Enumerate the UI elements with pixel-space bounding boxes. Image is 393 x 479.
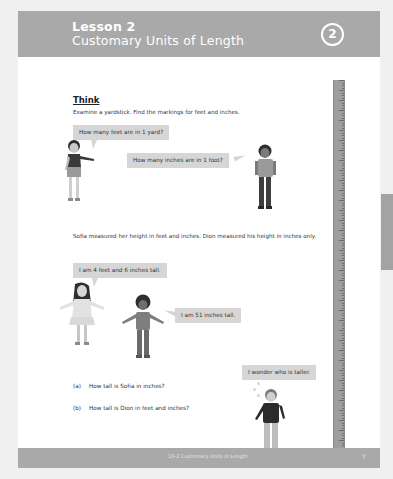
ruler-tick: [342, 275, 344, 276]
ruler-tick: [342, 208, 344, 209]
ruler-tick: [342, 345, 344, 346]
ruler-tick: [342, 408, 344, 409]
ruler-tick: [342, 195, 344, 196]
speech-bubble-dion: I am 51 inches tall.: [175, 308, 241, 323]
boy-illustration: [251, 143, 281, 213]
chapter-side-tab: [381, 194, 393, 270]
ruler-tick: [342, 265, 344, 266]
ruler-tick: [342, 183, 344, 184]
ruler-tick: [339, 280, 344, 281]
ruler-tick: [339, 400, 344, 401]
ruler-tick: [339, 410, 344, 411]
ruler-tick: [342, 273, 344, 274]
ruler-tick: [342, 375, 344, 376]
ruler-tick: [342, 435, 344, 436]
ruler-tick: [342, 115, 344, 116]
ruler-tick: [342, 188, 344, 189]
ruler-tick: [342, 288, 344, 289]
ruler-tick: [339, 380, 344, 381]
ruler-tick: [339, 320, 344, 321]
ruler-tick: [342, 268, 344, 269]
ruler-tick: [342, 185, 344, 186]
ruler-tick: [342, 193, 344, 194]
question-b-label: (b): [73, 405, 89, 411]
ruler-tick: [339, 440, 344, 441]
ruler-tick: [342, 235, 344, 236]
ruler-tick: [339, 360, 344, 361]
ruler-tick: [342, 308, 344, 309]
ruler-tick: [339, 390, 344, 391]
ruler-tick: [342, 295, 344, 296]
ruler-tick: [342, 318, 344, 319]
ruler-tick: [339, 230, 344, 231]
ruler-tick: [342, 433, 344, 434]
yardstick: [333, 80, 345, 448]
ruler-tick: [342, 88, 344, 89]
ruler-tick: [342, 228, 344, 229]
ruler-tick: [342, 203, 344, 204]
ruler-tick: [342, 105, 344, 106]
ruler-tick: [342, 175, 344, 176]
ruler-tick: [342, 165, 344, 166]
ruler-tick: [342, 338, 344, 339]
dion-illustration: [118, 294, 168, 364]
ruler-tick: [339, 340, 344, 341]
ruler-tick: [339, 190, 344, 191]
ruler-tick: [339, 100, 344, 101]
lesson-number: Lesson 2: [72, 19, 135, 34]
ruler-tick: [339, 350, 344, 351]
ruler-tick: [342, 85, 344, 86]
ruler-tick: [342, 178, 344, 179]
ruler-tick: [342, 358, 344, 359]
ruler-tick: [342, 108, 344, 109]
ruler-tick: [339, 160, 344, 161]
lesson-header: Lesson 2 Customary Units of Length 2: [18, 11, 380, 57]
ruler-tick: [342, 328, 344, 329]
page-number: 7: [362, 453, 366, 460]
sofia-illustration: [58, 281, 108, 351]
ruler-tick: [342, 218, 344, 219]
ruler-tick: [342, 425, 344, 426]
ruler-tick: [342, 378, 344, 379]
ruler-tick: [342, 143, 344, 144]
ruler-tick: [342, 305, 344, 306]
ruler-tick: [342, 383, 344, 384]
ruler-tick: [342, 263, 344, 264]
ruler-tick: [342, 298, 344, 299]
ruler-tick: [342, 168, 344, 169]
ruler-tick: [342, 213, 344, 214]
ruler-tick: [342, 395, 344, 396]
intro-text: Examine a yardstick. Find the markings f…: [73, 107, 323, 118]
ruler-tick: [342, 248, 344, 249]
question-a-label: (a): [73, 383, 89, 389]
thought-bubble-thinker: I wonder who is taller.: [242, 365, 316, 380]
ruler-tick: [339, 370, 344, 371]
ruler-tick: [342, 423, 344, 424]
ruler-tick: [342, 348, 344, 349]
ruler-tick: [342, 125, 344, 126]
ruler-tick: [339, 270, 344, 271]
ruler-tick: [342, 325, 344, 326]
ruler-tick: [342, 355, 344, 356]
ruler-tick: [342, 158, 344, 159]
ruler-tick: [342, 133, 344, 134]
page-footer: 10-2 Customary Units of Length 7: [18, 448, 380, 468]
ruler-tick: [342, 398, 344, 399]
textbook-page: Lesson 2 Customary Units of Length 2 Thi…: [18, 11, 380, 468]
girl-illustration: [62, 138, 102, 208]
ruler-tick: [339, 260, 344, 261]
ruler-tick: [342, 255, 344, 256]
ruler-tick: [342, 373, 344, 374]
ruler-tick: [342, 128, 344, 129]
ruler-tick: [342, 333, 344, 334]
ruler-tick: [342, 445, 344, 446]
ruler-tick: [342, 123, 344, 124]
question-a: (a)How tall is Sofia in inches?: [73, 383, 165, 389]
ruler-tick: [339, 250, 344, 251]
ruler-tick: [342, 278, 344, 279]
ruler-tick: [342, 303, 344, 304]
ruler-tick: [342, 283, 344, 284]
ruler-tick: [339, 120, 344, 121]
ruler-tick: [342, 405, 344, 406]
ruler-tick: [342, 93, 344, 94]
